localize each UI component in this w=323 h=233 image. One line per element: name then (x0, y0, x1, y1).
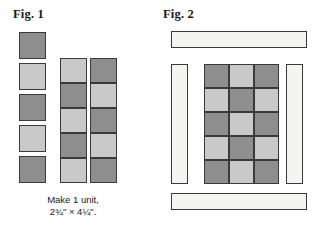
loose-square-4-light (19, 125, 46, 152)
sashing-bottom (171, 193, 307, 210)
center-cell-r4-c1-light (204, 136, 229, 160)
center-cell-r5-c2-light (229, 160, 254, 184)
pieced-strip-middle-cell-5-light (60, 158, 87, 183)
pieced-strip-right-cell-1-dark (90, 58, 117, 83)
pieced-strip-middle-cell-4-dark (60, 133, 87, 158)
figure-2-heading: Fig. 2 (163, 7, 194, 22)
pieced-strip-middle-cell-2-dark (60, 83, 87, 108)
center-cell-r3-c3-dark (254, 112, 279, 136)
caption-line-2: 2¾" × 4¼". (8, 206, 138, 218)
pieced-strip-middle-cell-1-light (60, 58, 87, 83)
caption-line-1: Make 1 unit, (8, 194, 138, 206)
pieced-strip-right-cell-4-light (90, 133, 117, 158)
center-cell-r3-c1-dark (204, 112, 229, 136)
figure-1-caption: Make 1 unit, 2¾" × 4¼". (8, 194, 138, 218)
quilt-instruction-diagram: Fig. 1 Make 1 unit, 2¾" × 4¼". Fig. 2 (0, 0, 323, 233)
pieced-strip-right-cell-2-light (90, 83, 117, 108)
center-cell-r5-c3-dark (254, 160, 279, 184)
pieced-strip-right-cell-3-dark (90, 108, 117, 133)
loose-square-3-dark (19, 94, 46, 121)
loose-square-1-dark (19, 32, 46, 59)
center-cell-r4-c3-light (254, 136, 279, 160)
pieced-strip-middle-cell-3-light (60, 108, 87, 133)
sashing-top (171, 31, 307, 48)
center-cell-r2-c2-dark (229, 88, 254, 112)
center-cell-r2-c1-light (204, 88, 229, 112)
loose-square-2-light (19, 63, 46, 90)
figure-1-heading: Fig. 1 (13, 7, 44, 22)
sashing-left (171, 64, 188, 184)
center-cell-r4-c2-dark (229, 136, 254, 160)
center-cell-r2-c3-light (254, 88, 279, 112)
sashing-right (286, 64, 303, 184)
center-cell-r1-c3-dark (254, 64, 279, 88)
pieced-strip-right-cell-5-dark (90, 158, 117, 183)
center-cell-r1-c2-light (229, 64, 254, 88)
center-cell-r5-c1-dark (204, 160, 229, 184)
loose-square-5-dark (19, 156, 46, 183)
center-cell-r1-c1-dark (204, 64, 229, 88)
center-cell-r3-c2-light (229, 112, 254, 136)
